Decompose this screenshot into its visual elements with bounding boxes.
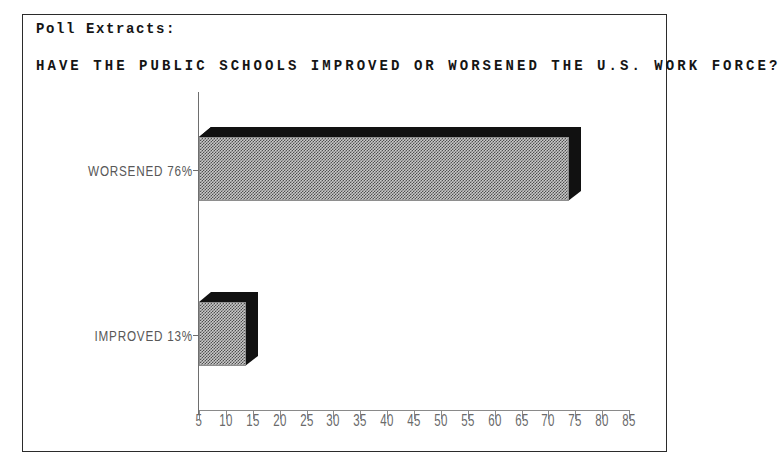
x-tick-label: 25 xyxy=(293,412,322,430)
category-tick-improved xyxy=(193,335,199,336)
x-tick-label: 75 xyxy=(561,412,590,430)
x-tick-label: 60 xyxy=(481,412,510,430)
x-tick-label: 80 xyxy=(588,412,617,430)
category-label-worsened: WORSENED 76% xyxy=(72,162,193,179)
x-tick-label: 5 xyxy=(185,412,214,430)
x-tick-label: 45 xyxy=(400,412,429,430)
x-tick-label: 70 xyxy=(534,412,563,430)
bar-worsened-top-face xyxy=(199,127,580,137)
bar-worsened-front-face xyxy=(199,137,569,201)
x-tick-label: 85 xyxy=(615,412,644,430)
category-tick-worsened xyxy=(193,170,199,171)
x-tick-label: 20 xyxy=(266,412,295,430)
x-tick-label: 40 xyxy=(373,412,402,430)
x-tick-label: 55 xyxy=(454,412,483,430)
chart-frame xyxy=(22,14,667,452)
x-tick-label: 30 xyxy=(319,412,348,430)
x-tick-label: 10 xyxy=(212,412,241,430)
section-label: Poll Extracts: xyxy=(36,21,176,37)
bar-improved-front-face xyxy=(199,302,246,366)
x-tick-label: 50 xyxy=(427,412,456,430)
x-tick-label: 35 xyxy=(346,412,375,430)
category-label-improved: IMPROVED 13% xyxy=(72,327,193,344)
chart-title: HAVE THE PUBLIC SCHOOLS IMPROVED OR WORS… xyxy=(36,58,780,74)
x-tick-label: 65 xyxy=(508,412,537,430)
x-tick-label: 15 xyxy=(239,412,268,430)
